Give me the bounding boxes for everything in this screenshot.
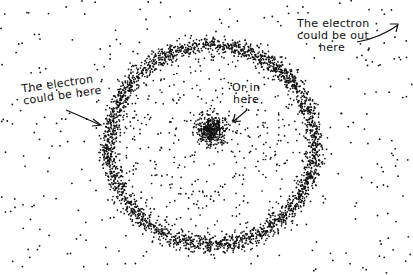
label-or-in-here: Or in here [232,82,260,106]
electron-cloud-diagram: The electron could be here The electron … [0,0,413,275]
label-line: here [297,42,370,54]
label-could-be-out-here: The electron could be out here [297,18,370,54]
label-line: here [232,94,260,106]
arrow-to-nucleus [234,110,247,121]
arrow-to-ring [66,110,100,125]
